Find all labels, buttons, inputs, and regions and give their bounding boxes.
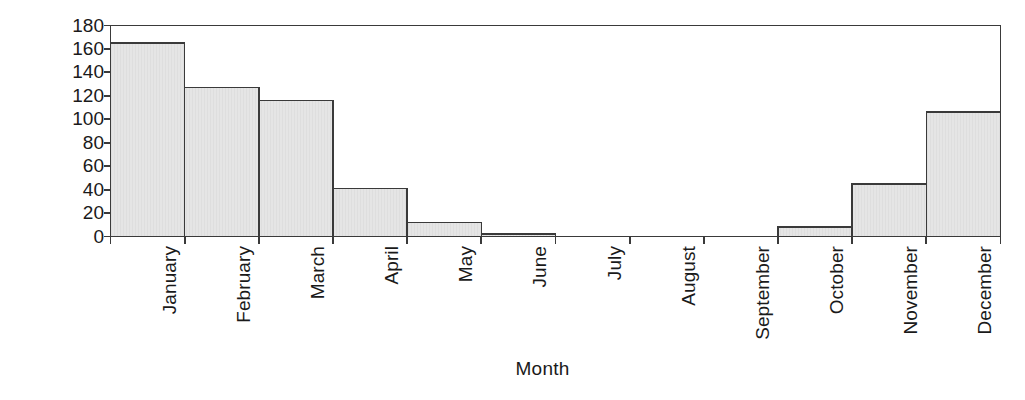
bar-may [407, 222, 481, 236]
bar-february [185, 88, 259, 237]
bar-november [852, 184, 926, 237]
chart-container: Frequency 020406080100120140160180 Janua… [0, 0, 1025, 400]
bar-march [259, 101, 333, 237]
x-axis-title: Month [516, 358, 570, 379]
bar-april [333, 188, 407, 236]
bar-december [926, 112, 1000, 236]
plot-area [0, 0, 1025, 400]
bar-october [778, 227, 852, 236]
x-axis-title-wrapper: Month [0, 358, 1025, 380]
bar-january [111, 43, 185, 236]
